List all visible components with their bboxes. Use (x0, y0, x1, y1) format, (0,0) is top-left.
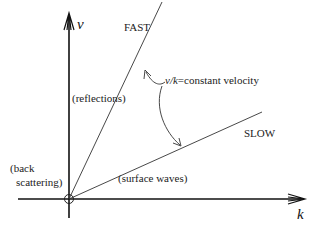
dispersion-diagram: ν k FAST SLOW ν/k=constant velocity (ref… (0, 0, 319, 227)
arrow-to-slow-line (159, 86, 180, 145)
vertical-axis-label: ν (77, 16, 84, 32)
reflections-label: (reflections) (72, 92, 126, 105)
slow-label: SLOW (244, 127, 276, 139)
back-scattering-line1: (back (10, 162, 35, 175)
horizontal-axis-label: k (297, 206, 304, 222)
velocity-text: =constant velocity (178, 74, 260, 86)
fast-label: FAST (124, 21, 150, 33)
velocity-annotation: ν/k=constant velocity (165, 74, 259, 86)
surface-waves-label: (surface waves) (118, 172, 188, 185)
slow-line (69, 112, 262, 199)
back-scattering-line2: scattering) (16, 176, 63, 189)
